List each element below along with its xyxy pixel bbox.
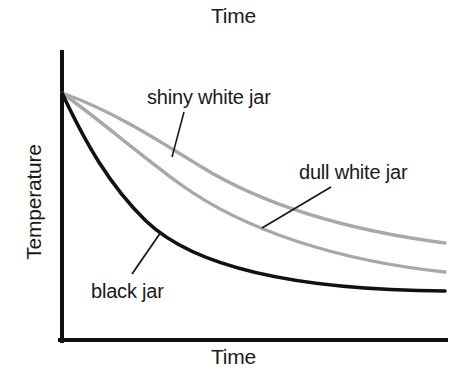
series-label-black-jar: black jar: [91, 280, 164, 303]
x-axis-title: Time: [0, 345, 467, 369]
leader-line-black-jar: [132, 232, 161, 274]
y-axis-title: Temperature: [22, 112, 46, 292]
leader-line-shiny-white-jar: [172, 112, 184, 157]
series-label-shiny-white-jar: shiny white jar: [147, 86, 271, 109]
chart-plot-area: [0, 0, 467, 371]
series-label-dull-white-jar: dull white jar: [299, 161, 407, 184]
chart-top-title: Time: [0, 4, 467, 28]
cooling-curves-chart: Time Time Temperature shiny white jar du…: [0, 0, 467, 371]
leader-line-dull-white-jar: [262, 187, 331, 228]
